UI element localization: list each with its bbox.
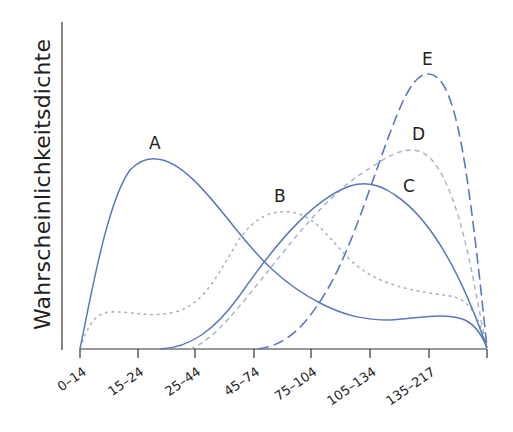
curve-label-d: D [412, 124, 425, 144]
curve-e [258, 74, 487, 349]
y-axis-label: Wahrscheinlichkeitsdichte [30, 39, 55, 330]
curve-c [160, 184, 487, 349]
curve-label-e: E [422, 49, 433, 69]
x-axis-ticks [80, 349, 487, 358]
curve-label-b: B [274, 186, 286, 206]
curve-label-c: C [403, 176, 415, 196]
curve-label-a: A [149, 133, 161, 153]
